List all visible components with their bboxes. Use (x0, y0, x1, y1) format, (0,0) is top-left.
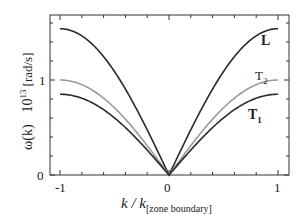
dispersion-chart: 0 1 -1 0 1 k / k[zone boundary] ω(k)1013… (0, 0, 305, 218)
curve-T1 (60, 94, 278, 175)
x-tick-0: 0 (164, 180, 171, 195)
x-axis-label: k / k[zone boundary] (121, 195, 212, 214)
x-tick-neg1: -1 (55, 180, 66, 195)
curves (60, 29, 278, 175)
y-tick-1: 1 (39, 73, 46, 88)
curve-T2 (60, 80, 278, 175)
label-T1: T1 (248, 107, 262, 125)
y-axis-label: ω(k)1013[rad/s] (18, 53, 36, 150)
x-tick-1: 1 (274, 180, 281, 195)
label-L: L (261, 33, 270, 48)
curve-L (60, 29, 278, 175)
y-tick-0: 0 (37, 168, 44, 183)
